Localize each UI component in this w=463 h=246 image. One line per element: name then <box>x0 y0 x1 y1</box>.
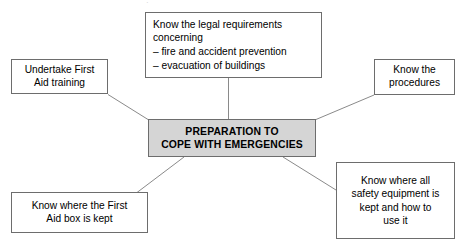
node-procedures-label: Know the procedures <box>380 64 449 89</box>
connector-center-to-safety-equipment <box>283 157 336 190</box>
connector-center-to-first-aid-training <box>108 95 148 120</box>
connector-center-to-first-aid-box <box>137 157 184 193</box>
node-procedures[interactable]: Know the procedures <box>374 59 455 95</box>
node-legal-requirements[interactable]: Know the legal requirements concerning –… <box>145 12 322 78</box>
diagram-canvas: · Know the legal requirements concerning… <box>0 0 463 246</box>
node-center-preparation[interactable]: PREPARATION TO COPE WITH EMERGENCIES <box>148 119 316 157</box>
node-safety-equipment-label: Know where all safety equipment is kept … <box>343 174 448 228</box>
connector-center-to-procedures <box>316 95 374 120</box>
node-first-aid-box-label: Know where the First Aid box is kept <box>17 200 142 225</box>
node-first-aid-training-label: Undertake First Aid training <box>17 64 102 89</box>
node-legal-requirements-label: Know the legal requirements concerning –… <box>153 18 315 72</box>
node-center-preparation-label: PREPARATION TO COPE WITH EMERGENCIES <box>153 125 311 151</box>
node-safety-equipment[interactable]: Know where all safety equipment is kept … <box>336 162 455 239</box>
cropped-text-artifact: · <box>146 0 156 5</box>
node-first-aid-training[interactable]: Undertake First Aid training <box>11 59 108 94</box>
node-first-aid-box[interactable]: Know where the First Aid box is kept <box>11 192 148 233</box>
